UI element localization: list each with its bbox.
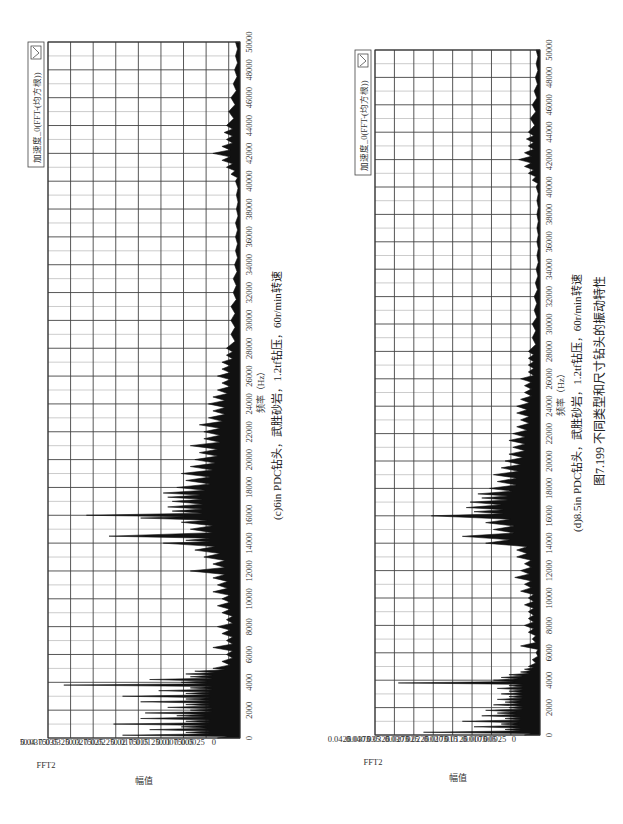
chart-c-svg: 0200040006000800010000120001400016000180… <box>20 10 280 790</box>
svg-text:46000: 46000 <box>544 94 554 115</box>
svg-text:26000: 26000 <box>544 368 554 389</box>
svg-text:4000: 4000 <box>544 672 554 689</box>
svg-text:0.0425: 0.0425 <box>20 737 24 747</box>
svg-text:30000: 30000 <box>244 310 254 331</box>
chart-d: 0200040006000800010000120001400016000180… <box>318 8 578 788</box>
svg-text:32000: 32000 <box>544 286 554 307</box>
svg-text:0.0425: 0.0425 <box>328 734 351 744</box>
svg-text:32000: 32000 <box>244 282 254 303</box>
y-axis-label: 幅值 <box>135 775 153 786</box>
svg-text:18000: 18000 <box>244 477 254 498</box>
x-axis-label: 频率（Hz） <box>555 369 566 416</box>
svg-text:28000: 28000 <box>244 338 254 359</box>
figure-caption: 图7.199 不同类型和尺寸钻头的振动特性 <box>590 276 608 486</box>
svg-text:12000: 12000 <box>544 560 554 581</box>
svg-text:0: 0 <box>544 733 554 737</box>
y-unit-label: FFT2 <box>364 757 383 767</box>
svg-text:50000: 50000 <box>544 39 554 60</box>
y-axis-ticks: 00.00250.0050.00750.010.01250.0150.01750… <box>328 734 516 744</box>
svg-text:38000: 38000 <box>544 204 554 225</box>
svg-text:12000: 12000 <box>244 560 254 581</box>
svg-text:34000: 34000 <box>244 254 254 275</box>
svg-text:24000: 24000 <box>544 396 554 417</box>
x-axis-ticks: 0200040006000800010000120001400016000180… <box>244 31 254 740</box>
svg-text:6000: 6000 <box>244 646 254 663</box>
grid <box>375 50 540 735</box>
svg-text:0: 0 <box>244 736 254 740</box>
svg-text:0: 0 <box>512 734 516 744</box>
svg-text:14000: 14000 <box>244 532 254 553</box>
legend-label: 加速度_0(FFT-(均方根)) <box>32 72 42 163</box>
svg-text:40000: 40000 <box>244 171 254 192</box>
svg-text:48000: 48000 <box>544 67 554 88</box>
svg-text:8000: 8000 <box>544 617 554 634</box>
svg-text:26000: 26000 <box>244 365 254 386</box>
svg-text:30000: 30000 <box>544 313 554 334</box>
y-axis-ticks: 00.00250.0050.00750.010.01250.0150.01750… <box>20 737 216 747</box>
svg-text:28000: 28000 <box>544 341 554 362</box>
svg-text:8000: 8000 <box>244 618 254 635</box>
svg-text:22000: 22000 <box>544 423 554 444</box>
y-axis-label: 幅值 <box>449 772 467 783</box>
svg-text:36000: 36000 <box>544 231 554 252</box>
svg-text:2000: 2000 <box>244 702 254 719</box>
svg-text:2000: 2000 <box>544 699 554 716</box>
svg-text:42000: 42000 <box>244 143 254 164</box>
svg-text:16000: 16000 <box>244 505 254 526</box>
chart-c-subtitle: (c)6in PDC钻头，武胜砂岩，1.2tf钻压，60r/min转速 <box>268 271 284 520</box>
svg-text:18000: 18000 <box>544 478 554 499</box>
svg-text:48000: 48000 <box>244 59 254 80</box>
svg-text:0: 0 <box>212 737 216 747</box>
svg-text:20000: 20000 <box>244 449 254 470</box>
grid <box>48 42 240 738</box>
svg-text:40000: 40000 <box>544 176 554 197</box>
svg-text:44000: 44000 <box>544 122 554 143</box>
svg-text:22000: 22000 <box>244 421 254 442</box>
svg-text:44000: 44000 <box>244 115 254 136</box>
svg-text:38000: 38000 <box>244 198 254 219</box>
chart-d-svg: 0200040006000800010000120001400016000180… <box>318 8 578 788</box>
x-axis-ticks: 0200040006000800010000120001400016000180… <box>544 39 554 737</box>
svg-text:20000: 20000 <box>544 450 554 471</box>
legend-label: 加速度_0(FFT-(均方根)) <box>359 80 369 171</box>
chart-d-subtitle: (d)8.5in PDC钻头，武胜砂岩，1.2tf钻压，60r/min转速 <box>568 274 584 532</box>
chart-c: 0200040006000800010000120001400016000180… <box>20 10 280 790</box>
svg-text:10000: 10000 <box>244 588 254 609</box>
svg-text:4000: 4000 <box>244 674 254 691</box>
svg-text:46000: 46000 <box>244 87 254 108</box>
legend: 加速度_0(FFT-(均方根)) <box>28 42 44 167</box>
svg-text:16000: 16000 <box>544 505 554 526</box>
y-unit-label: FFT2 <box>37 760 56 770</box>
legend-swatch-icon <box>358 54 368 67</box>
svg-text:34000: 34000 <box>544 259 554 280</box>
legend-swatch-icon <box>31 46 41 59</box>
x-axis-label: 频率（Hz） <box>255 367 266 414</box>
legend: 加速度_0(FFT-(均方根)) <box>355 50 371 175</box>
svg-text:6000: 6000 <box>544 644 554 661</box>
svg-text:24000: 24000 <box>244 393 254 414</box>
svg-text:50000: 50000 <box>244 31 254 52</box>
svg-text:10000: 10000 <box>544 587 554 608</box>
svg-text:14000: 14000 <box>544 533 554 554</box>
svg-text:42000: 42000 <box>544 149 554 170</box>
svg-text:36000: 36000 <box>244 226 254 247</box>
